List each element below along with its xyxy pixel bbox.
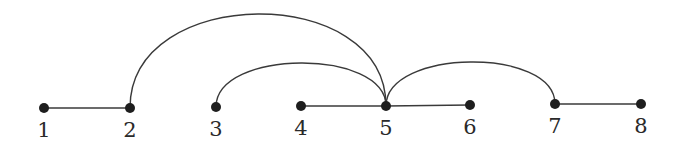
node-1	[39, 103, 49, 113]
node-label-4: 4	[294, 116, 307, 140]
node-label-7: 7	[548, 114, 561, 138]
node-5	[381, 101, 391, 111]
node-label-1: 1	[37, 118, 50, 142]
node-label-8: 8	[634, 114, 647, 138]
node-label-5: 5	[379, 116, 392, 140]
node-6	[465, 100, 475, 110]
node-3	[211, 102, 221, 112]
labels-group: 12345678	[37, 114, 647, 142]
node-4	[296, 101, 306, 111]
edges-group	[44, 14, 641, 108]
node-label-3: 3	[209, 117, 222, 141]
graph-diagram: 12345678	[0, 0, 680, 152]
edge-2-5	[130, 14, 386, 108]
node-label-2: 2	[123, 118, 136, 142]
node-label-6: 6	[463, 115, 476, 139]
node-7	[550, 99, 560, 109]
node-2	[125, 103, 135, 113]
edge-5-6	[386, 105, 470, 106]
node-8	[636, 99, 646, 109]
edge-5-7	[386, 62, 555, 106]
edge-3-5	[216, 63, 386, 107]
